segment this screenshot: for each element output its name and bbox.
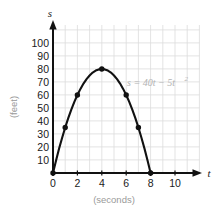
equation-exponent: 2 — [185, 75, 189, 83]
y-tick-label-90: 90 — [37, 50, 49, 62]
data-point-t1 — [62, 125, 67, 130]
data-point-t8 — [148, 170, 153, 175]
y-tick-label-30: 30 — [37, 128, 49, 140]
y-tick-label-10: 10 — [37, 154, 49, 166]
data-point-t0 — [50, 170, 55, 175]
x-tick-label-10: 10 — [169, 177, 181, 189]
y-axis-name-label: s — [48, 7, 52, 19]
x-tick-label-4: 4 — [99, 177, 105, 189]
y-tick-label-70: 70 — [37, 76, 49, 88]
equation-text: s = 40t − 5t — [127, 77, 175, 88]
y-tick-label-50: 50 — [37, 102, 49, 114]
data-point-t4 — [99, 66, 104, 71]
y-tick-label-20: 20 — [37, 141, 49, 153]
x-axis-unit-label: (seconds) — [93, 194, 135, 205]
x-tick-label-0: 0 — [50, 177, 56, 189]
chart-background — [0, 0, 217, 214]
x-tick-label-6: 6 — [123, 177, 129, 189]
y-axis-unit-label: (feet) — [8, 96, 19, 118]
y-tick-label-100: 100 — [31, 37, 49, 49]
y-tick-label-60: 60 — [37, 89, 49, 101]
x-tick-label-8: 8 — [148, 177, 154, 189]
data-point-t7 — [136, 125, 141, 130]
data-point-t2 — [75, 92, 80, 97]
x-tick-label-2: 2 — [74, 177, 80, 189]
data-point-t6 — [124, 92, 129, 97]
projectile-motion-chart: 100 90 80 70 60 50 40 30 20 10 0 2 4 6 8… — [0, 0, 217, 214]
chart-svg: 100 90 80 70 60 50 40 30 20 10 0 2 4 6 8… — [0, 0, 217, 214]
y-tick-label-40: 40 — [37, 115, 49, 127]
y-tick-label-80: 80 — [37, 63, 49, 75]
